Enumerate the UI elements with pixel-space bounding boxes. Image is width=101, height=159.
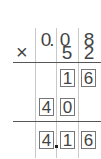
multiplier-digit-ones: 2 (81, 43, 97, 63)
partial2-digit-tens: 0 (60, 98, 75, 116)
result-line (13, 121, 101, 122)
result-digit-hundredths: 6 (81, 131, 96, 149)
multiply-sign: × (16, 42, 28, 62)
result-digit-tenths: 1 (60, 131, 75, 149)
result-decimal-point (55, 145, 58, 148)
multiplicand-decimal-point: . (48, 30, 56, 50)
result-digit-ones: 4 (39, 131, 54, 149)
operation-line (13, 62, 101, 63)
column-divider-3 (78, 28, 79, 158)
partial1-digit-ones: 6 (81, 69, 96, 87)
multiplier-digit-tens: 5 (59, 43, 75, 63)
partial1-digit-tens: 1 (60, 69, 75, 87)
partial2-digit-hundreds: 4 (39, 98, 54, 116)
column-divider-1 (35, 28, 36, 158)
